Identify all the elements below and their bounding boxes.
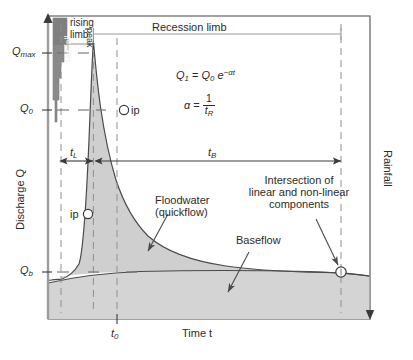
alpha-equation: α = 1 tR	[184, 94, 215, 118]
y-tick-label-qmax: Qmax	[12, 45, 36, 60]
inflection-point-lower-label: ip	[70, 208, 79, 220]
floodwater-label-line1: Floodwater	[155, 194, 209, 206]
intersection-label-line3: components	[240, 198, 358, 210]
recession-limb-label: Recession limb	[152, 21, 227, 33]
y-tick-label-q0: Q0	[20, 102, 33, 117]
inflection-point-lower-marker	[83, 209, 92, 218]
intersection-label-line2: linear and non-linear	[240, 186, 358, 198]
baseflow-label: Baseflow	[236, 234, 281, 246]
y-tick-label-qb: Qb	[20, 264, 33, 279]
recession-equation: Q1 = Q0 e−αt	[176, 69, 235, 84]
peak-label: peak	[85, 28, 95, 48]
x-tick-label-t0: t0	[111, 327, 118, 342]
intersection-label-line1: Intersection of	[240, 174, 358, 186]
rising-limb-label-line1: rising	[70, 17, 94, 28]
rainfall-axis-label: Rainfall	[382, 150, 394, 187]
baseflow-region	[48, 271, 370, 319]
inflection-point-upper-label: ip	[131, 104, 140, 116]
hydrograph-figure: Qmax Q0 Qb Discharge Q Rainfall t0 Time …	[0, 0, 413, 360]
y-axis-label: Discharge Q	[14, 169, 26, 230]
x-axis-label: Time t	[182, 327, 212, 339]
base-time-label: tB	[208, 146, 216, 161]
floodwater-label-line2: (quickflow)	[155, 206, 208, 218]
lag-time-label: tL	[70, 146, 77, 161]
inflection-point-upper-marker	[119, 105, 128, 114]
